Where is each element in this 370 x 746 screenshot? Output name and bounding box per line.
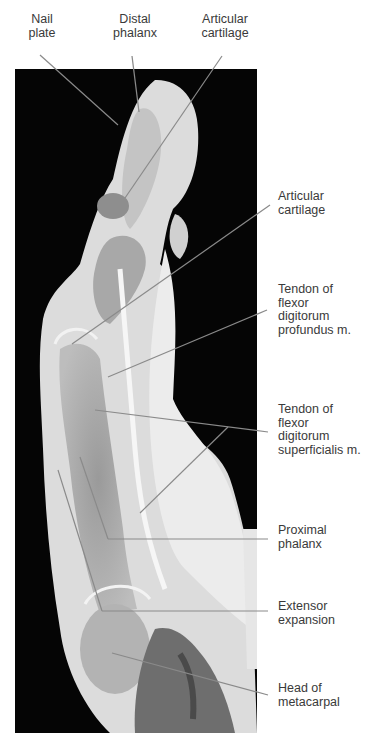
label-distal-phalanx: Distal phalanx bbox=[108, 13, 162, 40]
label-extensor-expansion: Extensor expansion bbox=[278, 600, 335, 627]
label-tendon-fds: Tendon of flexor digitorum superficialis… bbox=[278, 403, 361, 457]
label-articular-cartilage: Articular cartilage bbox=[278, 190, 325, 217]
label-articular-cartilage-top: Articular cartilage bbox=[196, 13, 254, 40]
finger-section-photo bbox=[15, 69, 257, 733]
label-head-metacarpal: Head of metacarpal bbox=[278, 682, 340, 709]
label-proximal-phalanx: Proximal phalanx bbox=[278, 524, 327, 551]
label-nail-plate: Nail plate bbox=[18, 13, 66, 40]
finger-section-illustration bbox=[15, 69, 257, 733]
label-tendon-fdp: Tendon of flexor digitorum profundus m. bbox=[278, 283, 351, 337]
